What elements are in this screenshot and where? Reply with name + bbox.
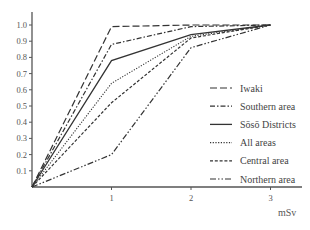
y-tick-label: 0.4 xyxy=(16,117,27,127)
y-tick-label: 0.7 xyxy=(16,69,27,79)
legend-label: Iwaki xyxy=(240,83,263,94)
y-tick-label: 0.5 xyxy=(16,101,27,111)
y-tick-label: 0.9 xyxy=(16,36,27,46)
y-tick-label: 0.1 xyxy=(16,166,27,176)
series-line-central-area xyxy=(32,25,271,187)
legend-label: All areas xyxy=(240,137,276,148)
legend-label: Southern area xyxy=(240,101,296,112)
x-ticks: 123 xyxy=(109,187,272,203)
y-ticks: 0.10.20.30.40.50.60.70.80.91.0 xyxy=(16,20,32,176)
legend-label: Northern area xyxy=(240,174,296,185)
legend: IwakiSouthern areaSōsō DistrictsAll area… xyxy=(210,83,296,185)
x-axis-label: mSv xyxy=(278,207,296,218)
y-tick-label: 0.2 xyxy=(16,150,27,160)
series-line-southern-area xyxy=(32,25,271,187)
y-tick-label: 0.6 xyxy=(16,85,27,95)
series-lines xyxy=(32,25,271,187)
series-line-all-areas xyxy=(32,25,271,187)
y-tick-label: 1.0 xyxy=(16,20,27,30)
series-line-s-s-districts xyxy=(32,25,271,187)
series-line-northern-area xyxy=(32,25,271,187)
x-tick-label: 3 xyxy=(268,193,272,203)
legend-label: Central area xyxy=(240,155,289,166)
x-tick-label: 1 xyxy=(109,193,113,203)
y-tick-label: 0.8 xyxy=(16,52,27,62)
chart: 0.10.20.30.40.50.60.70.80.91.0 123 Iwaki… xyxy=(0,0,310,230)
x-tick-label: 2 xyxy=(189,193,193,203)
series-line-iwaki xyxy=(32,25,271,187)
legend-label: Sōsō Districts xyxy=(240,119,296,130)
y-tick-label: 0.3 xyxy=(16,133,27,143)
